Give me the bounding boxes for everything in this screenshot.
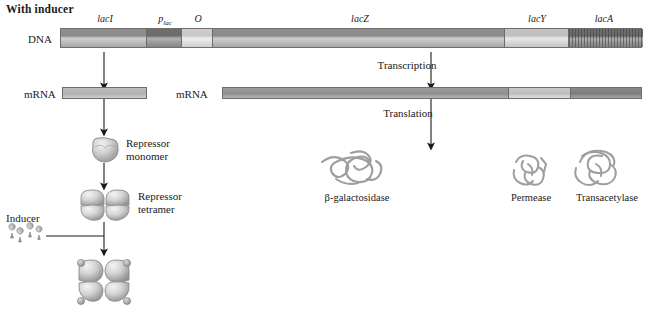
gene-label-promoter: plac xyxy=(146,13,184,27)
dna-bar xyxy=(60,28,642,48)
dna-segment-laci xyxy=(61,29,147,47)
gene-label-laca: lacA xyxy=(575,13,633,24)
promoter-subscript: lac xyxy=(163,19,172,27)
repressor-monomer-icon xyxy=(88,136,122,164)
dna-segment-promoter xyxy=(147,29,182,47)
mrna-bar-laci xyxy=(62,87,147,99)
protein-label-permease: Permease xyxy=(498,192,564,203)
transacetylase-icon xyxy=(570,146,624,190)
inducer-label: Inducer xyxy=(6,212,40,225)
inducer-bound-tetramer-icon xyxy=(72,256,136,310)
gene-label-laci: lacI xyxy=(75,13,135,24)
gene-label-lacz: lacZ xyxy=(330,13,390,24)
protein-label-beta-galactosidase: β-galactosidase xyxy=(302,192,412,203)
mrna-segment-laca xyxy=(571,88,641,98)
dna-segment-laca xyxy=(569,29,643,47)
repressor-monomer-label-line1: Repressor xyxy=(126,137,170,150)
process-label-transcription: Transcription xyxy=(362,59,452,71)
repressor-tetramer-label-line1: Repressor xyxy=(138,190,182,203)
protein-label-transacetylase: Transacetylase xyxy=(566,192,648,203)
repressor-tetramer-label: Repressor tetramer xyxy=(138,190,182,215)
process-label-translation: Translation xyxy=(368,107,448,119)
mrna-segment-lacy xyxy=(509,88,571,98)
permease-icon xyxy=(508,150,554,190)
mrna-right-row-label: mRNA xyxy=(176,88,208,100)
dna-row-label: DNA xyxy=(28,33,52,45)
mrna-bar-operon xyxy=(222,87,642,99)
repressor-tetramer-label-line2: tetramer xyxy=(138,203,182,216)
inducer-molecules-icon xyxy=(8,226,50,248)
repressor-monomer-label: Repressor monomer xyxy=(126,137,170,162)
mrna-left-row-label: mRNA xyxy=(24,88,56,100)
lac-operon-diagram-with-inducer: With inducer DNA lacI plac O lacZ lacY l… xyxy=(0,0,648,315)
mrna-segment-lacz xyxy=(223,88,509,98)
repressor-tetramer-icon xyxy=(78,188,132,224)
gene-label-lacy: lacY xyxy=(508,13,566,24)
dna-segment-lacz xyxy=(213,29,505,47)
gene-label-operator: O xyxy=(182,13,214,24)
beta-galactosidase-icon xyxy=(318,145,394,189)
dna-segment-operator xyxy=(182,29,213,47)
dna-segment-lacy xyxy=(505,29,569,47)
repressor-monomer-label-line2: monomer xyxy=(126,150,170,163)
figure-title: With inducer xyxy=(6,3,74,15)
